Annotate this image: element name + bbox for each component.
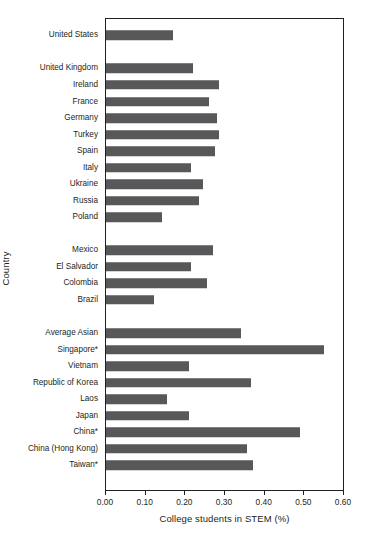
- bar-row: Republic of Korea: [0, 374, 365, 391]
- bar-row: Turkey: [0, 126, 365, 143]
- category-label: Republic of Korea: [33, 378, 98, 388]
- bar-row: France: [0, 93, 365, 110]
- category-label: Japan: [76, 411, 98, 421]
- bar: [106, 130, 219, 140]
- category-label: United States: [49, 30, 98, 40]
- category-label: Poland: [73, 212, 99, 222]
- bar: [106, 444, 247, 454]
- bar: [106, 378, 251, 388]
- bar: [106, 411, 189, 421]
- bar: [106, 345, 324, 355]
- category-label: China (Hong Kong): [28, 444, 98, 454]
- category-label: Singapore*: [57, 345, 98, 355]
- bar: [106, 246, 213, 256]
- bar-chart-figure: Country United StatesUnited KingdomIrela…: [0, 0, 365, 537]
- category-label: United Kingdom: [40, 63, 98, 73]
- x-axis-title: College students in STEM (%): [105, 513, 344, 524]
- bar: [106, 262, 191, 272]
- bar: [106, 163, 191, 173]
- bar: [106, 428, 300, 438]
- bar: [106, 394, 167, 404]
- category-label: Turkey: [73, 130, 98, 140]
- bar-row: Mexico: [0, 242, 365, 259]
- bar-row: Russia: [0, 192, 365, 209]
- category-label: Average Asian: [45, 328, 98, 338]
- bar-row: Germany: [0, 110, 365, 127]
- bar-row: Italy: [0, 159, 365, 176]
- bar-row: United Kingdom: [0, 60, 365, 77]
- x-tick-mark: [145, 491, 146, 495]
- bar-row: China (Hong Kong): [0, 441, 365, 458]
- x-tick-label: 0.00: [85, 497, 125, 507]
- category-label: China*: [73, 427, 98, 437]
- bar: [106, 461, 253, 471]
- x-tick-label: 0.20: [164, 497, 204, 507]
- bar: [106, 279, 207, 289]
- x-tick-label: 0.60: [323, 497, 363, 507]
- category-label: Ukraine: [70, 179, 98, 189]
- x-tick-mark: [264, 491, 265, 495]
- bar-row: Spain: [0, 143, 365, 160]
- x-tick-mark: [224, 491, 225, 495]
- bar: [106, 80, 219, 90]
- bar-row: Poland: [0, 209, 365, 226]
- bar-row: Colombia: [0, 275, 365, 292]
- category-label: El Salvador: [56, 262, 98, 272]
- bars-container: United StatesUnited KingdomIrelandFrance…: [0, 18, 365, 491]
- bar-row: El Salvador: [0, 259, 365, 276]
- x-tick-mark: [343, 491, 344, 495]
- bar: [106, 113, 217, 123]
- category-label: Laos: [80, 394, 98, 404]
- bar-row: Ireland: [0, 77, 365, 94]
- bar: [106, 213, 162, 223]
- category-label: Brazil: [78, 295, 98, 305]
- x-tick-mark: [105, 491, 106, 495]
- category-label: Ireland: [73, 80, 98, 90]
- x-tick-label: 0.40: [244, 497, 284, 507]
- category-label: Russia: [73, 196, 98, 206]
- x-axis-ticks: 0.000.100.200.300.400.500.60: [0, 491, 365, 511]
- x-tick-label: 0.10: [125, 497, 165, 507]
- bar: [106, 295, 154, 305]
- x-tick-label: 0.50: [283, 497, 323, 507]
- category-label: Taiwan*: [69, 460, 98, 470]
- category-label: Spain: [77, 146, 98, 156]
- bar-row: Brazil: [0, 292, 365, 309]
- bar-row: Vietnam: [0, 358, 365, 375]
- bar-row: Ukraine: [0, 176, 365, 193]
- category-label: France: [73, 97, 98, 107]
- category-label: Colombia: [63, 278, 98, 288]
- x-tick-label: 0.30: [204, 497, 244, 507]
- bar-row: Singapore*: [0, 341, 365, 358]
- bar-row: China*: [0, 424, 365, 441]
- category-label: Italy: [83, 163, 98, 173]
- bar: [106, 146, 215, 156]
- bar: [106, 179, 203, 189]
- bar: [106, 361, 189, 371]
- category-label: Mexico: [72, 245, 98, 255]
- bar: [106, 196, 199, 206]
- bar-row: Average Asian: [0, 325, 365, 342]
- bar: [106, 328, 241, 338]
- category-label: Vietnam: [68, 361, 98, 371]
- category-label: Germany: [64, 113, 98, 123]
- bar-row: Taiwan*: [0, 457, 365, 474]
- bar: [106, 31, 173, 41]
- x-tick-mark: [303, 491, 304, 495]
- bar-row: Japan: [0, 407, 365, 424]
- bar: [106, 97, 209, 107]
- bar-row: Laos: [0, 391, 365, 408]
- x-tick-mark: [184, 491, 185, 495]
- bar-row: United States: [0, 27, 365, 44]
- bar: [106, 64, 193, 74]
